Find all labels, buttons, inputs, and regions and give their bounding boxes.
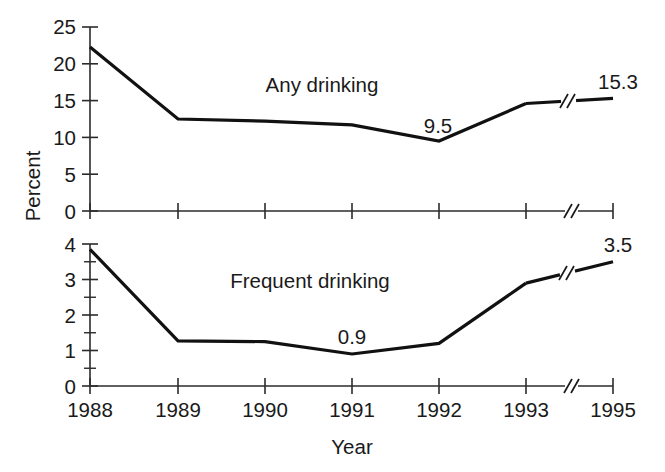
top-x-axis-break-icon: [564, 204, 579, 218]
bottom-y-tick-label: 2: [65, 304, 76, 327]
bottom-y-tick-label: 3: [65, 268, 76, 291]
bottom-annotation-end: 3.5: [604, 233, 633, 256]
y-axis-title: Percent: [21, 150, 44, 221]
x-tick-label: 1991: [329, 398, 375, 421]
x-tick-label: 1988: [67, 398, 113, 421]
x-tick-label: 1992: [416, 398, 462, 421]
top-series-break-icon: [560, 94, 576, 108]
top-y-tick-labels: 25 20 15 10 5 0: [53, 15, 76, 223]
x-tick-label: 1989: [155, 398, 201, 421]
top-panel: Percent 25 20 15 10 5 0: [21, 15, 638, 223]
top-y-tick-label: 15: [53, 89, 76, 112]
top-annotation-end: 15.3: [598, 70, 638, 93]
top-y-tick-label: 20: [53, 52, 76, 75]
top-series-label: Any drinking: [266, 73, 379, 96]
bottom-series-line-main: [90, 249, 526, 354]
bottom-y-tick-labels: 4 3 2 1 0: [65, 233, 76, 398]
bottom-y-tick-label: 1: [65, 339, 76, 362]
bottom-series-label: Frequent drinking: [230, 269, 390, 292]
top-annotation-min: 9.5: [424, 114, 453, 137]
x-tick-label: 1993: [503, 398, 549, 421]
top-y-tick-label: 5: [65, 163, 76, 186]
chart-figure: Percent 25 20 15 10 5 0: [0, 0, 665, 472]
x-tick-label: 1990: [242, 398, 288, 421]
bottom-series-break-icon: [559, 266, 575, 280]
top-y-tick-label: 0: [65, 200, 76, 223]
chart-svg: Percent 25 20 15 10 5 0: [0, 0, 665, 472]
bottom-annotation-min: 0.9: [338, 325, 367, 348]
top-y-tick-label: 25: [53, 15, 76, 38]
bottom-panel: 4 3 2 1 0: [65, 233, 636, 459]
bottom-x-tick-labels: 1988 1989 1990 1991 1992 1993 1995: [67, 398, 636, 421]
bottom-y-tick-label: 4: [65, 233, 76, 256]
top-y-tick-label: 10: [53, 126, 76, 149]
bottom-y-tick-label: 0: [65, 375, 76, 398]
x-axis-title: Year: [331, 435, 373, 458]
bottom-x-axis-break-icon: [564, 379, 579, 393]
x-tick-label: 1995: [590, 398, 636, 421]
